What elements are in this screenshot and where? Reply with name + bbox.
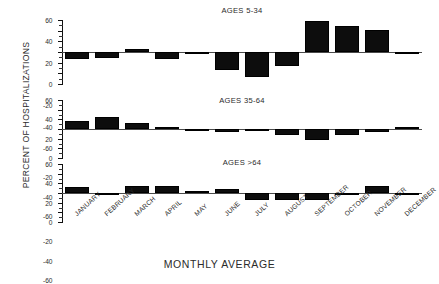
bar xyxy=(335,26,359,52)
y-axis-minor-tick xyxy=(59,198,63,199)
y-axis-minor-tick xyxy=(59,57,63,58)
y-axis-minor-tick xyxy=(59,105,63,106)
y-axis-minor-tick xyxy=(59,124,63,125)
y-axis-minor-tick xyxy=(59,47,63,48)
bar xyxy=(305,129,329,140)
y-axis-tick-label: -60 xyxy=(43,277,53,284)
y-axis-tick: -20 xyxy=(58,139,63,140)
x-axis-tick-labels: JANUARYFEBRUARYMARCHAPRILMAYJUNEJULYAUGU… xyxy=(62,212,422,258)
plot-area: 6040200-20-40-60 xyxy=(62,100,422,158)
y-axis-tick-label: 60 xyxy=(45,97,52,104)
bar xyxy=(185,191,209,193)
bar xyxy=(245,193,269,200)
y-axis-tick: 60 xyxy=(58,20,63,21)
bar xyxy=(155,186,179,193)
bar xyxy=(395,127,419,129)
y-axis-tick-label: 20 xyxy=(45,199,52,206)
y-axis-minor-tick xyxy=(59,134,63,135)
bar xyxy=(395,52,419,54)
y-axis-minor-tick xyxy=(59,79,63,80)
plot-area: 6040200-20-40-60 xyxy=(62,20,422,84)
bar xyxy=(365,30,389,52)
y-axis-minor-tick xyxy=(59,208,63,209)
y-axis-minor-tick xyxy=(59,188,63,189)
y-axis-minor-tick xyxy=(59,179,63,180)
bar xyxy=(125,49,149,52)
y-axis-tick-label: 40 xyxy=(45,116,52,123)
bar xyxy=(365,129,389,132)
y-axis-tick-label: -40 xyxy=(43,123,53,130)
y-axis-tick: 20 xyxy=(58,41,63,42)
y-axis-tick: -20 xyxy=(58,63,63,64)
bar xyxy=(275,193,299,200)
bar xyxy=(335,129,359,135)
y-axis-minor-tick xyxy=(59,36,63,37)
y-axis-tick: 40 xyxy=(58,110,63,111)
bar xyxy=(65,121,89,129)
y-axis-minor-tick xyxy=(59,25,63,26)
y-axis-tick: -60 xyxy=(58,84,63,85)
y-axis-minor-tick xyxy=(59,115,63,116)
y-axis-minor-tick xyxy=(59,68,63,69)
bar xyxy=(65,187,89,193)
bar xyxy=(95,117,119,129)
y-axis-tick-label: 0 xyxy=(49,81,53,88)
bar xyxy=(305,21,329,52)
panel-title: AGES 5-34 xyxy=(62,6,422,15)
bar xyxy=(245,52,269,77)
y-axis-tick: 20 xyxy=(58,183,63,184)
y-axis-tick: 60 xyxy=(58,100,63,101)
y-axis-tick: -40 xyxy=(58,73,63,74)
y-axis-tick-label: 60 xyxy=(45,161,52,168)
bar xyxy=(155,127,179,129)
bar xyxy=(215,129,239,132)
bar xyxy=(215,189,239,193)
y-axis-tick-label: 60 xyxy=(45,17,52,24)
y-axis-tick: 40 xyxy=(58,31,63,32)
y-axis-tick: 40 xyxy=(58,174,63,175)
bar xyxy=(245,129,269,131)
y-axis-tick-label: 40 xyxy=(45,38,52,45)
bar xyxy=(155,52,179,59)
y-axis-tick-label: -60 xyxy=(43,145,53,152)
y-axis-title: PERCENT OF HOSPITALIZATIONS xyxy=(21,15,31,215)
y-axis-tick: -20 xyxy=(58,203,63,204)
y-axis-tick: 60 xyxy=(58,164,63,165)
y-axis-tick-label: 0 xyxy=(49,219,53,226)
y-axis-tick-label: 20 xyxy=(45,59,52,66)
y-axis-minor-tick xyxy=(59,144,63,145)
y-axis-tick: 20 xyxy=(58,119,63,120)
x-axis-title: MONTHLY AVERAGE xyxy=(0,258,439,270)
y-axis-tick-label: 40 xyxy=(45,180,52,187)
bar xyxy=(215,52,239,70)
y-axis-minor-tick xyxy=(59,153,63,154)
y-axis-minor-tick xyxy=(59,169,63,170)
bar xyxy=(275,129,299,135)
y-axis-tick-label: -20 xyxy=(43,238,53,245)
bar xyxy=(95,52,119,58)
bar xyxy=(185,52,209,54)
bar xyxy=(125,123,149,129)
bar xyxy=(275,52,299,66)
y-axis-tick-label: 20 xyxy=(45,135,52,142)
bar xyxy=(65,52,89,59)
bar xyxy=(185,129,209,131)
y-axis-tick: -40 xyxy=(58,148,63,149)
